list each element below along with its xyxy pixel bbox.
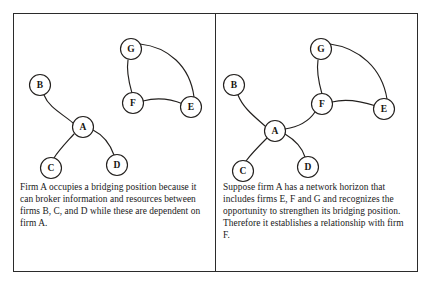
edge-f-e: [332, 100, 376, 106]
node-b[interactable]: B: [30, 75, 51, 96]
edge-g-f: [317, 60, 322, 94]
node-circle-d: [107, 155, 128, 176]
caption-left: Firm A occupies a bridging position beca…: [20, 181, 208, 229]
node-g[interactable]: G: [121, 39, 142, 60]
edge-a-c: [54, 134, 74, 158]
node-d[interactable]: D: [298, 157, 319, 178]
node-label-d: D: [114, 160, 121, 170]
node-c[interactable]: C: [41, 158, 62, 179]
node-label-g: G: [127, 44, 135, 54]
node-label-f: F: [319, 99, 325, 109]
node-circle-c: [41, 158, 62, 179]
node-circle-g: [121, 39, 142, 60]
edge-b-a: [238, 95, 265, 126]
node-e[interactable]: E: [181, 97, 202, 118]
node-circle-c: [233, 161, 254, 182]
node-g[interactable]: G: [311, 39, 332, 60]
node-label-b: B: [231, 80, 238, 90]
edge-g-e: [140, 44, 194, 97]
edge-a-d: [93, 130, 114, 155]
edge-a-d: [285, 134, 305, 157]
edge-g-e: [330, 44, 387, 99]
node-circle-g: [311, 39, 332, 60]
node-label-e: E: [381, 104, 387, 114]
node-circle-a: [73, 117, 94, 138]
node-label-e: E: [188, 102, 194, 112]
edge-g-f: [127, 60, 132, 93]
node-circle-b: [30, 75, 51, 96]
node-label-c: C: [48, 163, 55, 173]
node-circle-d: [298, 157, 319, 178]
node-label-d: D: [305, 162, 312, 172]
node-label-f: F: [130, 98, 136, 108]
node-e[interactable]: E: [374, 99, 395, 120]
node-circle-b: [224, 75, 245, 96]
edge-a-f: [285, 112, 315, 129]
node-label-g: G: [317, 44, 325, 54]
node-label-c: C: [240, 166, 247, 176]
edge-b-a: [44, 95, 73, 123]
node-f[interactable]: F: [312, 94, 333, 115]
edge-f-e: [143, 99, 183, 104]
node-d[interactable]: D: [107, 155, 128, 176]
node-circle-e: [374, 99, 395, 120]
figure-root: BACDGFE Firm A occupies a bridging posit…: [0, 0, 432, 287]
node-c[interactable]: C: [233, 161, 254, 182]
node-f[interactable]: F: [123, 93, 144, 114]
network-graph-right: BACDGFE: [216, 13, 418, 193]
node-a[interactable]: A: [265, 121, 286, 142]
node-circle-e: [181, 97, 202, 118]
node-circle-f: [123, 93, 144, 114]
node-circle-f: [312, 94, 333, 115]
panel-right: BACDGFE Suppose firm A has a network hor…: [216, 13, 418, 272]
node-label-a: A: [272, 126, 279, 136]
node-circle-a: [265, 121, 286, 142]
node-label-b: B: [37, 80, 44, 90]
network-graph-left: BACDGFE: [13, 13, 216, 193]
node-label-a: A: [80, 122, 87, 132]
panel-left: BACDGFE Firm A occupies a bridging posit…: [13, 13, 216, 272]
node-b[interactable]: B: [224, 75, 245, 96]
node-a[interactable]: A: [73, 117, 94, 138]
edge-a-c: [246, 138, 267, 161]
caption-right: Suppose firm A has a network horizon tha…: [223, 181, 410, 241]
